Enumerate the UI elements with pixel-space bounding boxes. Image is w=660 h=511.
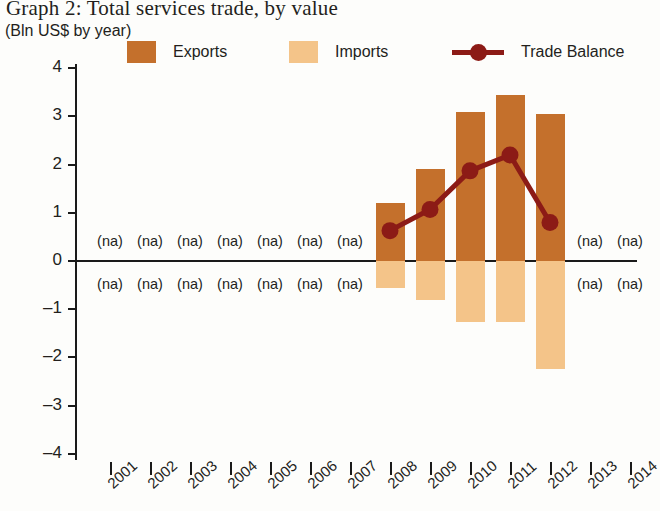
trade-balance-point xyxy=(422,201,439,218)
trade-balance-point xyxy=(462,162,479,179)
trade-balance-point xyxy=(502,146,519,163)
trade-balance-point xyxy=(542,214,559,231)
trade-balance-point xyxy=(382,222,399,239)
